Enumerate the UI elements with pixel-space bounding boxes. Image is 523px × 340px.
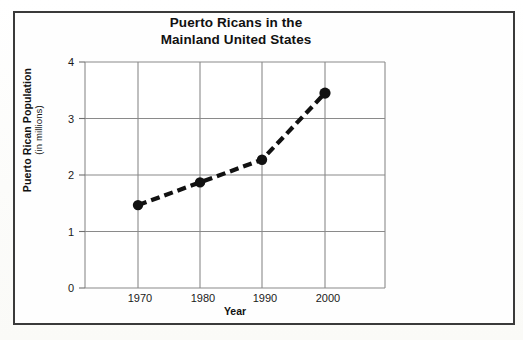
y-axis-label: Puerto Rican Population (in millions) bbox=[21, 45, 61, 215]
figure-page: Puerto Ricans in the Mainland United Sta… bbox=[0, 0, 523, 340]
x-tick-label-2000: 2000 bbox=[302, 292, 354, 304]
y-tick-label-1: 1 bbox=[52, 226, 74, 238]
y-tick-marks bbox=[79, 62, 85, 288]
x-tick-label-1990: 1990 bbox=[239, 292, 291, 304]
y-tick-label-3: 3 bbox=[52, 113, 74, 125]
y-tick-label-0: 0 bbox=[52, 282, 74, 294]
data-point-1990 bbox=[257, 155, 267, 165]
y-tick-label-4: 4 bbox=[52, 56, 74, 68]
data-point-1980 bbox=[195, 177, 205, 187]
y-axis-label-main: Puerto Rican Population bbox=[21, 45, 33, 215]
chart-title: Puerto Ricans in the Mainland United Sta… bbox=[86, 14, 386, 49]
chart-title-line-2: Mainland United States bbox=[86, 31, 386, 48]
chart-figure bbox=[0, 0, 523, 340]
x-axis-label: Year bbox=[85, 305, 385, 317]
chart-title-line-1: Puerto Ricans in the bbox=[86, 14, 386, 31]
x-tick-label-1970: 1970 bbox=[114, 292, 166, 304]
data-point-1970 bbox=[133, 200, 143, 210]
y-tick-label-2: 2 bbox=[52, 169, 74, 181]
y-axis-label-units: (in millions) bbox=[34, 45, 45, 215]
data-point-2000 bbox=[319, 88, 330, 99]
x-tick-label-1980: 1980 bbox=[177, 292, 229, 304]
